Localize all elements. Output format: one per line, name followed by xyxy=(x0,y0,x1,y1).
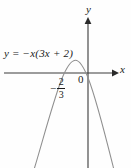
equation-label: y = −x(3x + 2) xyxy=(4,48,73,59)
figure-background xyxy=(0,0,131,168)
fraction-numerator: 2 xyxy=(58,77,65,88)
x-axis-label: x xyxy=(120,64,125,75)
x-intercept-label: − 2 3 xyxy=(50,77,65,100)
minus-sign: − xyxy=(50,83,56,94)
fraction-two-thirds: 2 3 xyxy=(57,77,65,100)
y-axis-label: y xyxy=(86,4,91,15)
origin-label: 0 xyxy=(78,74,84,85)
fraction-denominator: 3 xyxy=(58,89,65,100)
parabola-figure xyxy=(0,0,131,168)
